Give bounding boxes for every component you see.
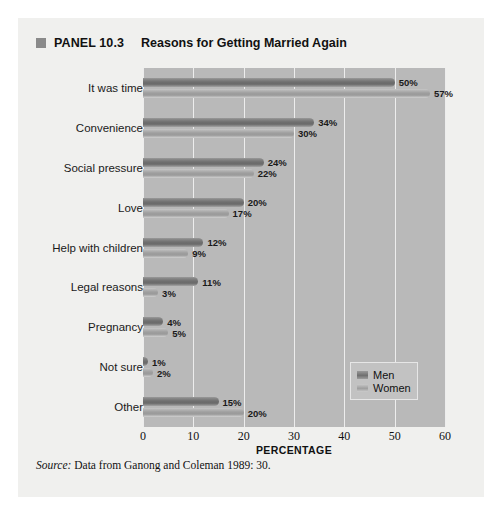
x-tick-40: 40 xyxy=(338,429,350,444)
source-label: Source: xyxy=(36,459,71,471)
legend-label-men: Men xyxy=(373,369,394,381)
bar-women xyxy=(143,209,229,218)
bar-row: 57% xyxy=(143,89,445,98)
category-label: Love xyxy=(118,202,143,214)
bar-value-label: 57% xyxy=(434,88,453,99)
bar-row: 4% xyxy=(143,317,445,326)
bar-row: 12% xyxy=(143,238,445,247)
legend-item-women: Women xyxy=(357,381,411,394)
bar-value-label: 30% xyxy=(298,128,317,139)
bar-row: 24% xyxy=(143,158,445,167)
bar-row: 34% xyxy=(143,118,445,127)
bar-men xyxy=(143,118,314,127)
bar-women xyxy=(143,89,430,98)
bar-women xyxy=(143,408,244,417)
bar-men xyxy=(143,277,198,286)
category-label: Help with children xyxy=(52,242,143,254)
bar-row: 17% xyxy=(143,209,445,218)
chart-legend: Men Women xyxy=(350,362,418,400)
source-text: Data from Ganong and Coleman 1989: 30. xyxy=(74,459,270,471)
category-label: Pregnancy xyxy=(88,321,143,333)
bar-value-label: 20% xyxy=(248,197,267,208)
bar-row: 11% xyxy=(143,277,445,286)
bar-women xyxy=(143,129,294,138)
bar-value-label: 9% xyxy=(192,248,206,259)
category-label: Convenience xyxy=(76,122,143,134)
bar-value-label: 20% xyxy=(248,407,267,418)
bar-chart: It was timeConvenienceSocial pressureLov… xyxy=(18,50,484,450)
bar-row: 30% xyxy=(143,129,445,138)
bar-value-label: 5% xyxy=(172,327,186,338)
legend-item-men: Men xyxy=(357,368,411,381)
panel-container: PANEL 10.3 Reasons for Getting Married A… xyxy=(18,18,484,497)
bar-row: 20% xyxy=(143,408,445,417)
bar-value-label: 12% xyxy=(207,237,226,248)
bar-value-label: 1% xyxy=(152,356,166,367)
bar-row: 5% xyxy=(143,328,445,337)
category-label: Legal reasons xyxy=(71,281,143,293)
panel-header: PANEL 10.3 Reasons for Getting Married A… xyxy=(36,36,347,50)
panel-number: PANEL 10.3 xyxy=(54,36,124,50)
category-label: Other xyxy=(114,401,143,413)
legend-swatch-women xyxy=(357,384,368,392)
bar-value-label: 4% xyxy=(167,316,181,327)
bar-value-label: 22% xyxy=(258,168,277,179)
bar-row: 50% xyxy=(143,78,445,87)
legend-label-women: Women xyxy=(373,382,411,394)
bar-men xyxy=(143,238,203,247)
bar-men xyxy=(143,397,219,406)
bar-women xyxy=(143,169,254,178)
x-axis-ticks: 0102030405060 xyxy=(143,427,445,445)
bar-men xyxy=(143,317,163,326)
bar-row: 9% xyxy=(143,249,445,258)
bar-women xyxy=(143,288,158,297)
square-bullet-icon xyxy=(36,38,46,48)
category-label: Social pressure xyxy=(64,162,143,174)
source-note: Source: Data from Ganong and Coleman 198… xyxy=(36,459,271,471)
bar-value-label: 11% xyxy=(202,276,221,287)
bar-value-label: 15% xyxy=(223,396,242,407)
page-title: Reasons for Getting Married Again xyxy=(141,36,347,50)
x-tick-10: 10 xyxy=(187,429,199,444)
category-label: Not sure xyxy=(100,361,143,373)
x-tick-30: 30 xyxy=(288,429,300,444)
bar-men xyxy=(143,78,395,87)
bar-value-label: 24% xyxy=(268,157,287,168)
x-tick-50: 50 xyxy=(389,429,401,444)
bar-value-label: 50% xyxy=(399,77,418,88)
bar-row: 3% xyxy=(143,288,445,297)
bar-value-label: 17% xyxy=(233,208,252,219)
bar-value-label: 3% xyxy=(162,287,176,298)
x-axis-label: PERCENTAGE xyxy=(143,444,445,456)
bar-men xyxy=(143,198,244,207)
bar-women xyxy=(143,368,153,377)
x-tick-0: 0 xyxy=(140,429,146,444)
bar-row: 22% xyxy=(143,169,445,178)
x-tick-60: 60 xyxy=(439,429,451,444)
bar-value-label: 34% xyxy=(318,117,337,128)
gridline-60 xyxy=(445,68,446,427)
plot-area: 50%57%34%30%24%22%20%17%12%9%11%3%4%5%1%… xyxy=(143,68,445,427)
bar-women xyxy=(143,328,168,337)
x-tick-20: 20 xyxy=(238,429,250,444)
bar-row: 20% xyxy=(143,198,445,207)
bar-men xyxy=(143,158,264,167)
bar-men xyxy=(143,357,148,366)
bar-women xyxy=(143,249,188,258)
legend-swatch-men xyxy=(357,371,368,379)
category-axis: It was timeConvenienceSocial pressureLov… xyxy=(18,68,143,427)
category-label: It was time xyxy=(88,82,143,94)
bar-value-label: 2% xyxy=(157,367,171,378)
